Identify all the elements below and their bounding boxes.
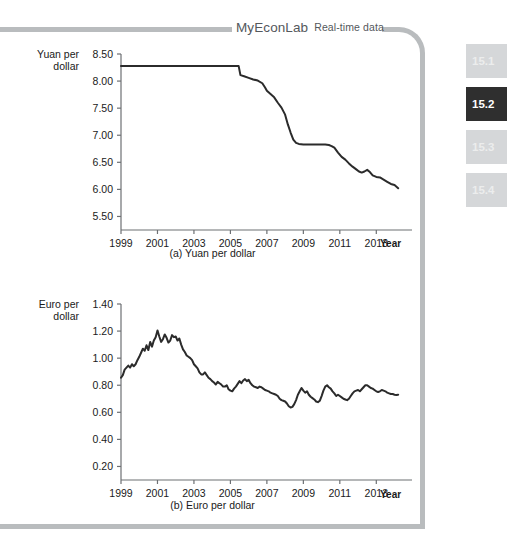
- y-axis-title: dollar: [53, 60, 79, 72]
- plot-area-euro: 0.200.400.600.801.001.201.40199920012003…: [0, 288, 425, 520]
- data-series-line: [121, 66, 398, 188]
- y-axis-title: dollar: [53, 310, 79, 322]
- section-tab-15-4[interactable]: 15.4: [466, 173, 507, 207]
- y-tick-label: 1.20: [93, 325, 114, 337]
- x-tick-label: 2007: [255, 487, 279, 499]
- y-tick-label: 0.60: [93, 406, 114, 418]
- x-tick-label: 2003: [182, 487, 206, 499]
- x-tick-label: 2001: [146, 487, 170, 499]
- x-tick-label: 2011: [329, 487, 352, 499]
- y-tick-label: 8.50: [93, 48, 114, 60]
- y-tick-label: 6.50: [93, 156, 114, 168]
- section-tab-15-2[interactable]: 15.2: [466, 87, 507, 121]
- y-axis-title: Euro per: [39, 298, 80, 310]
- y-tick-label: 0.80: [93, 379, 114, 391]
- myeconlab-brand: MyEconLab: [236, 20, 308, 35]
- y-tick-label: 1.00: [93, 352, 114, 364]
- y-axis-title: Yuan per: [37, 48, 80, 60]
- chart-yuan-per-dollar: 5.506.006.507.007.508.008.50199920012003…: [0, 40, 425, 270]
- myeconlab-tagline: Real-time data: [314, 21, 384, 33]
- data-series-line: [121, 330, 398, 407]
- y-tick-label: 7.00: [93, 129, 114, 141]
- y-tick-label: 0.20: [93, 460, 114, 472]
- x-tick-label: 2009: [292, 487, 316, 499]
- section-tab-list: 15.1 15.2 15.3 15.4: [466, 44, 507, 207]
- caption-yuan: (a) Yuan per dollar: [0, 247, 425, 259]
- section-tab-15-1[interactable]: 15.1: [466, 44, 507, 78]
- caption-euro: (b) Euro per dollar: [0, 499, 425, 511]
- y-tick-label: 5.50: [93, 210, 114, 222]
- y-tick-label: 7.50: [93, 102, 114, 114]
- x-axis-label-yuan: Year: [380, 238, 401, 249]
- x-axis-label-euro: Year: [380, 489, 401, 500]
- chart-euro-per-dollar: 0.200.400.600.801.001.201.40199920012003…: [0, 288, 425, 520]
- x-tick-label: 2005: [219, 487, 243, 499]
- y-tick-label: 0.40: [93, 433, 114, 445]
- section-tab-15-3[interactable]: 15.3: [466, 130, 507, 164]
- plot-area-yuan: 5.506.006.507.007.508.008.50199920012003…: [0, 40, 425, 270]
- y-tick-label: 6.00: [93, 183, 114, 195]
- x-tick-label: 1999: [109, 487, 133, 499]
- y-tick-label: 1.40: [93, 298, 114, 310]
- y-tick-label: 8.00: [93, 75, 114, 87]
- myeconlab-banner: MyEconLab Real-time data: [236, 18, 384, 36]
